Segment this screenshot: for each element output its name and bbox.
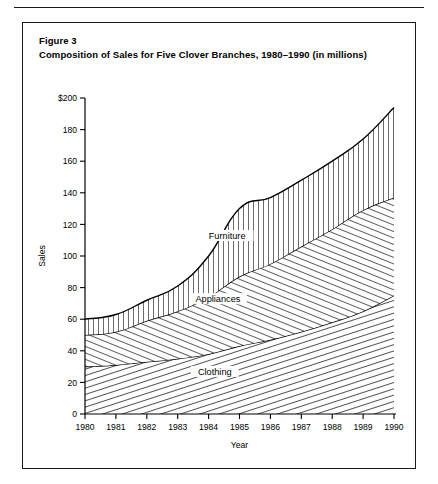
x-axis-title: Year bbox=[231, 440, 249, 450]
x-tick-label-1983: 1983 bbox=[168, 422, 187, 432]
y-axis-title: Sales bbox=[37, 245, 47, 267]
series-label-clothing: Clothing bbox=[198, 367, 232, 377]
y-tick-label-80: 80 bbox=[67, 283, 77, 293]
y-tick-label-20: 20 bbox=[67, 378, 77, 388]
y-tick-label-100: 100 bbox=[63, 251, 78, 261]
y-tick-label-180: 180 bbox=[63, 125, 78, 135]
x-tick-label-1987: 1987 bbox=[292, 422, 311, 432]
top-divider-rule bbox=[14, 7, 424, 8]
y-tick-label-40: 40 bbox=[67, 346, 77, 356]
x-tick-label-1984: 1984 bbox=[199, 422, 218, 432]
x-tick-label-1988: 1988 bbox=[323, 422, 342, 432]
x-tick-label-1980: 1980 bbox=[75, 422, 94, 432]
y-tick-label-200: $200 bbox=[58, 93, 77, 103]
plot-root: 020406080100120140160180$200198019811982… bbox=[37, 93, 404, 450]
x-tick-label-1986: 1986 bbox=[261, 422, 280, 432]
y-tick-label-160: 160 bbox=[63, 156, 78, 166]
y-tick-label-120: 120 bbox=[63, 220, 78, 230]
x-tick-label-1982: 1982 bbox=[137, 422, 156, 432]
y-tick-label-140: 140 bbox=[63, 188, 78, 198]
series-label-appliances: Appliances bbox=[195, 294, 240, 304]
x-tick-label-1985: 1985 bbox=[230, 422, 249, 432]
chart-svg: 020406080100120140160180$200198019811982… bbox=[23, 23, 417, 470]
y-tick-label-60: 60 bbox=[67, 314, 77, 324]
stacked-area-chart: 020406080100120140160180$200198019811982… bbox=[23, 23, 417, 470]
x-tick-label-1990: 1990 bbox=[384, 422, 403, 432]
x-tick-label-1981: 1981 bbox=[106, 422, 125, 432]
x-tick-label-1989: 1989 bbox=[354, 422, 373, 432]
figure-box: Figure 3 Composition of Sales for Five C… bbox=[22, 22, 416, 469]
series-label-furniture: Furniture bbox=[209, 231, 246, 241]
y-tick-label-0: 0 bbox=[72, 409, 77, 419]
figure-page: Figure 3 Composition of Sales for Five C… bbox=[0, 0, 438, 484]
